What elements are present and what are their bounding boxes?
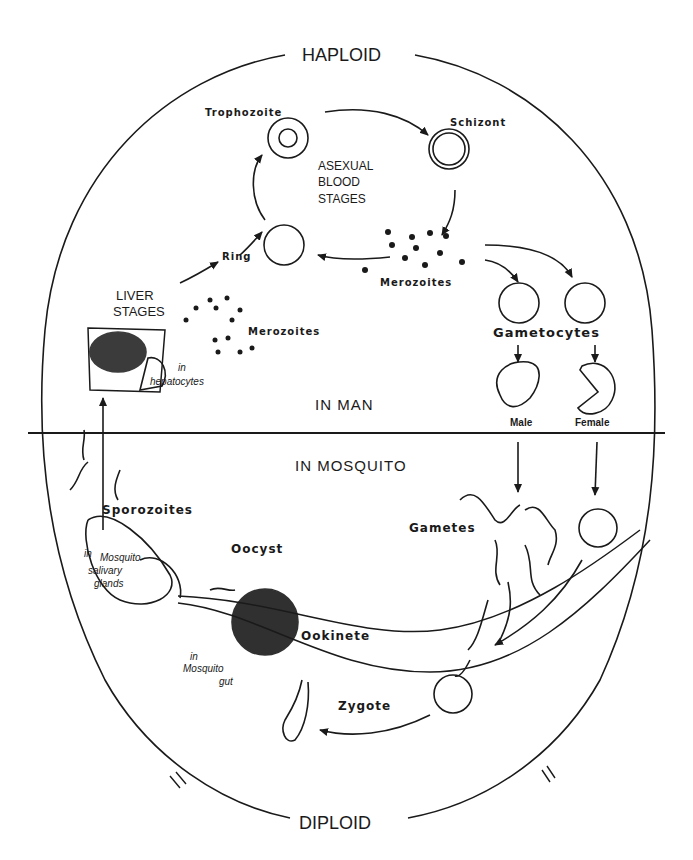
gut-line-2: Mosquito: [183, 664, 224, 674]
gametocytes-label: Gametocytes: [493, 326, 600, 339]
salivary-line-4: glands: [94, 579, 123, 589]
ring-label: Ring: [222, 252, 251, 262]
male-label: Male: [510, 418, 532, 428]
trophozoite-label: Trophozoite: [205, 108, 282, 118]
female-gamete-cell: [579, 509, 617, 547]
oocyst-shape: [232, 589, 298, 655]
trophozoite-cell: [268, 118, 308, 158]
ring-cell: [264, 225, 304, 265]
hepatocytes-line-1: in: [178, 363, 186, 373]
malaria-life-cycle-diagram: HAPLOID DIPLOID IN MAN IN MOSQUITO Troph…: [0, 0, 693, 860]
haploid-arc-left: [42, 55, 290, 818]
gut-line-1: in: [190, 652, 198, 662]
merozoites-liver-label: Merozoites: [248, 327, 320, 337]
diagram-drawing: [0, 0, 693, 860]
haploid-label: HAPLOID: [302, 46, 381, 64]
haploid-arc-right: [408, 55, 655, 818]
zygote-label: Zygote: [338, 700, 391, 712]
asexual-heading-line-3: STAGES: [318, 193, 366, 205]
salivary-line-2: Mosquito: [100, 553, 141, 563]
sporozoites-label: Sporozoites: [102, 504, 193, 516]
liver-heading-line-1: LIVER: [116, 289, 154, 302]
female-label: Female: [575, 418, 609, 428]
ookinete-label: Ookinete: [301, 630, 370, 642]
merozoites-blood-label: Merozoites: [380, 278, 452, 288]
liver-heading-line-2: STAGES: [113, 305, 165, 318]
in-mosquito-label: IN MOSQUITO: [295, 458, 407, 473]
asexual-heading-line-2: BLOOD: [318, 176, 360, 188]
gametes-label: Gametes: [409, 522, 476, 534]
schizont-label: Schizont: [450, 118, 506, 128]
gametocyte-female-cell: [565, 283, 605, 323]
diploid-label: DIPLOID: [299, 814, 371, 832]
asexual-heading-line-1: ASEXUAL: [318, 160, 373, 172]
zygote-cell: [434, 675, 472, 713]
salivary-line-1: in: [84, 549, 92, 559]
schizont-cell: [429, 129, 469, 169]
gametocyte-male-cell: [499, 283, 539, 323]
gut-line-3: gut: [219, 677, 233, 687]
oocyst-label: Oocyst: [231, 543, 283, 555]
salivary-line-3: salivary: [88, 566, 122, 576]
hepatocytes-line-2: hepatocytes: [150, 377, 204, 387]
in-man-label: IN MAN: [315, 397, 374, 412]
